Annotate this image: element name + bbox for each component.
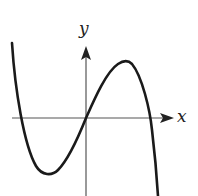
graph-figure: y x [0, 0, 198, 196]
x-axis-label: x [177, 108, 187, 125]
cubic-curve [12, 43, 158, 196]
graph-canvas [0, 0, 198, 196]
y-axis-label: y [79, 20, 89, 37]
